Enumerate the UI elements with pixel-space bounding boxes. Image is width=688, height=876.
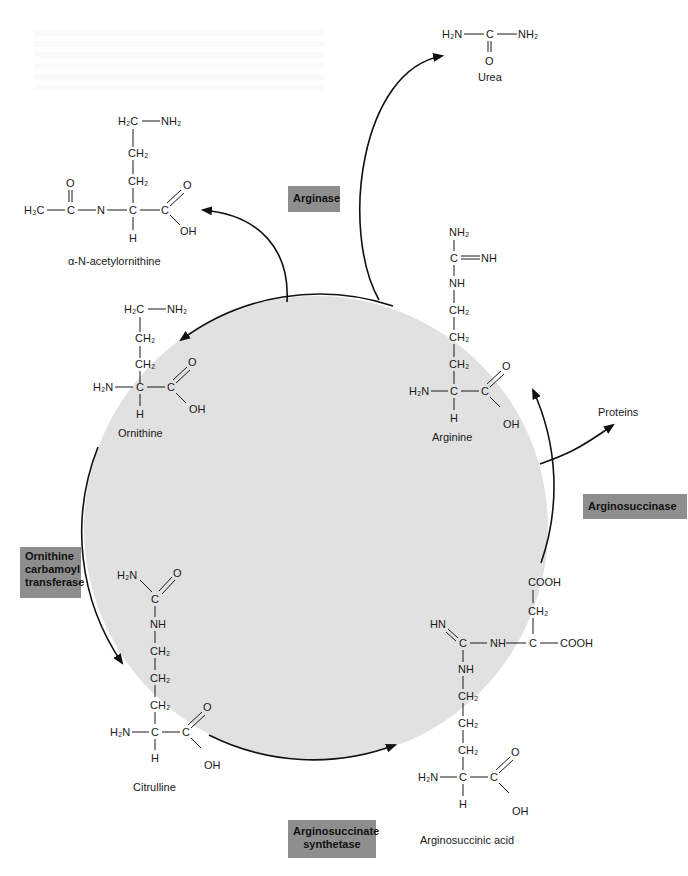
svg-text:H: H	[450, 412, 458, 424]
ornithine-label: Ornithine	[118, 427, 163, 439]
svg-text:C: C	[167, 381, 175, 393]
arginosuccinic-acid-label: Arginosuccinic acid	[420, 834, 514, 846]
svg-text:H: H	[459, 798, 467, 810]
arrow-to-acetylornithine	[203, 210, 287, 302]
svg-text:OH: OH	[180, 225, 197, 237]
svg-text:C: C	[129, 204, 137, 216]
svg-text:NH₂: NH₂	[167, 303, 187, 315]
svg-text:C: C	[450, 385, 458, 397]
svg-text:CH₂: CH₂	[128, 175, 148, 187]
urea-label: Urea	[478, 71, 503, 83]
svg-text:CH₂: CH₂	[150, 699, 170, 711]
molecule-urea: H₂N C NH₂ O Urea	[442, 28, 538, 83]
arginine-label: Arginine	[432, 431, 472, 443]
svg-text:H: H	[136, 408, 144, 420]
svg-text:OH: OH	[189, 403, 206, 415]
svg-text:O: O	[502, 360, 511, 372]
svg-text:OH: OH	[204, 759, 221, 771]
svg-text:C: C	[459, 771, 467, 783]
svg-text:H₂N: H₂N	[409, 385, 429, 397]
svg-text:C: C	[490, 771, 498, 783]
svg-text:N: N	[97, 204, 105, 216]
enzyme-line: synthetase	[293, 838, 371, 851]
enzyme-line: Arginosuccinate	[293, 825, 371, 838]
svg-text:CH₂: CH₂	[458, 690, 478, 702]
svg-text:C: C	[151, 726, 159, 738]
svg-text:CH₂: CH₂	[150, 672, 170, 684]
svg-text:C: C	[67, 204, 75, 216]
svg-text:COOH: COOH	[528, 576, 561, 588]
svg-text:C: C	[161, 204, 169, 216]
acetylornithine-label: α-N-acetylornithine	[68, 255, 161, 267]
svg-text:C: C	[151, 593, 159, 605]
svg-text:CH₂: CH₂	[128, 147, 148, 159]
svg-text:CH₂: CH₂	[458, 744, 478, 756]
svg-text:CH₂: CH₂	[135, 332, 155, 344]
svg-text:CH₂: CH₂	[449, 331, 469, 343]
svg-text:NH: NH	[449, 277, 465, 289]
arrow-to-urea	[360, 56, 442, 300]
svg-text:O: O	[183, 179, 192, 191]
svg-text:H₂N: H₂N	[93, 381, 113, 393]
enzyme-arginase: Arginase	[288, 186, 340, 212]
svg-text:CH₂: CH₂	[135, 358, 155, 370]
enzyme-arginosuccinate-synthetase: Arginosuccinate synthetase	[288, 820, 376, 858]
svg-text:HN: HN	[430, 618, 446, 630]
svg-text:OH: OH	[512, 805, 529, 817]
svg-text:H₂N: H₂N	[418, 771, 438, 783]
svg-text:CH₂: CH₂	[150, 645, 170, 657]
svg-text:C: C	[136, 381, 144, 393]
svg-text:O: O	[511, 746, 520, 758]
enzyme-arginosuccinase: Arginosuccinase	[583, 494, 687, 519]
svg-text:NH: NH	[490, 637, 506, 649]
svg-text:C: C	[182, 726, 190, 738]
svg-text:COOH: COOH	[560, 637, 593, 649]
svg-text:CH₂: CH₂	[458, 717, 478, 729]
svg-text:H₂C: H₂C	[118, 115, 138, 127]
enzyme-line: transferase	[25, 576, 76, 589]
svg-text:C: C	[459, 637, 467, 649]
svg-text:CH₂: CH₂	[449, 358, 469, 370]
svg-text:NH₂: NH₂	[161, 115, 181, 127]
svg-text:NH: NH	[458, 663, 474, 675]
svg-text:H₂N: H₂N	[117, 569, 137, 581]
svg-text:O: O	[66, 177, 75, 189]
svg-text:O: O	[173, 567, 182, 579]
svg-text:CH₂: CH₂	[449, 304, 469, 316]
svg-text:H: H	[151, 752, 159, 764]
urea-cycle-diagram: H₂N C NH₂ O Urea H₂C NH₂ CH₂ CH₂ H₃C C O…	[0, 0, 688, 876]
svg-text:O: O	[188, 356, 197, 368]
svg-text:H: H	[129, 232, 137, 244]
enzyme-line: Ornithine	[25, 550, 76, 563]
svg-text:H₂N: H₂N	[110, 726, 130, 738]
svg-text:O: O	[203, 701, 212, 713]
svg-text:C: C	[529, 637, 537, 649]
svg-text:C: C	[450, 252, 458, 264]
svg-text:H₃C: H₃C	[24, 204, 44, 216]
svg-text:NH₂: NH₂	[449, 226, 469, 238]
molecule-acetylornithine: H₂C NH₂ CH₂ CH₂ H₃C C O N C H C O OH α-N…	[24, 115, 197, 267]
proteins-label: Proteins	[598, 406, 639, 418]
svg-text:O: O	[485, 55, 494, 67]
citrulline-label: Citrulline	[133, 781, 176, 793]
svg-text:H₂N: H₂N	[442, 28, 462, 40]
enzyme-line: carbamoyl	[25, 563, 76, 576]
svg-text:C: C	[481, 385, 489, 397]
svg-text:NH: NH	[150, 618, 166, 630]
svg-text:CH₂: CH₂	[528, 605, 548, 617]
svg-text:H₂C: H₂C	[124, 303, 144, 315]
svg-text:C: C	[486, 28, 494, 40]
svg-text:NH₂: NH₂	[518, 28, 538, 40]
svg-text:NH: NH	[481, 252, 497, 264]
svg-text:OH: OH	[503, 418, 520, 430]
enzyme-ornithine-carbamoyl-transferase: Ornithine carbamoyl transferase	[20, 547, 81, 598]
